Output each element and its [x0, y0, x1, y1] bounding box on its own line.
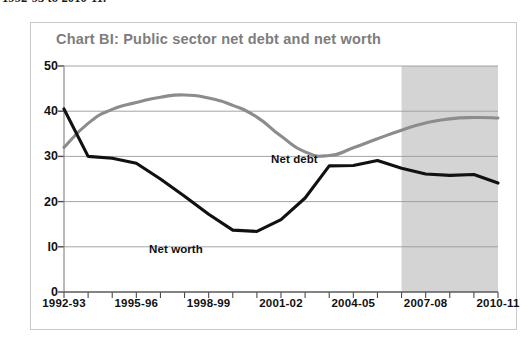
figure-caption-clip: 1992-93 to 2010-11. [0, 0, 532, 10]
y-axis-tick-label: 40 [44, 105, 58, 118]
chart-figure-box: Chart BI: Public sector net debt and net… [30, 22, 517, 330]
x-axis-tick-label: 2001-02 [259, 297, 303, 309]
plot-area: Net debt Net worth [64, 66, 498, 292]
x-axis-tick-label: 2004-05 [332, 297, 376, 309]
series-label-net-worth: Net worth [149, 243, 203, 255]
series-label-net-debt: Net debt [271, 153, 318, 165]
chart-plot-svg [64, 66, 498, 292]
y-axis-tick-labels: 0l020304050 [31, 66, 58, 292]
y-axis-tick-label: 30 [44, 150, 58, 163]
y-axis-tick-label: 50 [44, 60, 58, 73]
x-axis-tick-label: 2007-08 [404, 297, 448, 309]
y-axis-tick-label: 20 [44, 196, 58, 209]
figure-caption-text: 1992-93 to 2010-11. [2, 0, 106, 6]
x-axis-tick-label: 1998-99 [187, 297, 231, 309]
x-axis-tick-labels: 1992-931995-961998-992001-022004-052007-… [64, 297, 498, 317]
x-axis-tick-label: 1992-93 [42, 297, 86, 309]
y-axis-tick-label: l0 [48, 241, 58, 254]
chart-title: Chart BI: Public sector net debt and net… [56, 31, 381, 47]
y-axis-tick-marks [58, 66, 64, 292]
x-axis-tick-label: 1995-96 [115, 297, 159, 309]
x-axis-tick-label: 2010-11 [477, 297, 520, 309]
